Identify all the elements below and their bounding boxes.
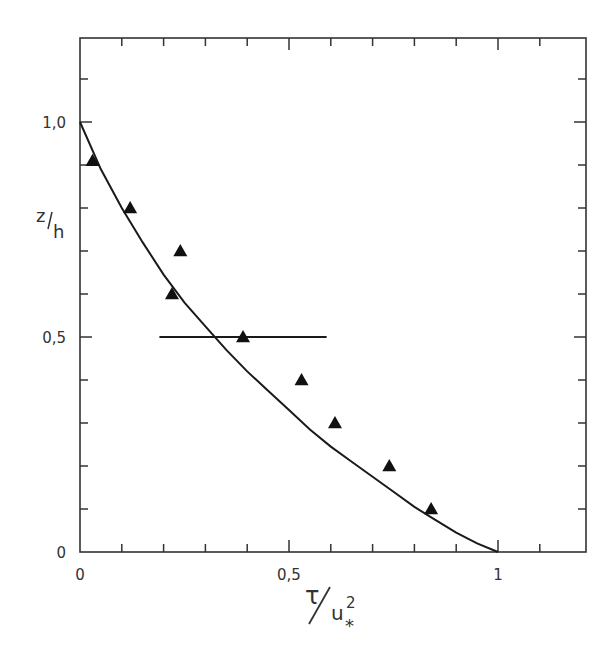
- y-tick-label: 0,5: [42, 329, 66, 347]
- data-markers: [86, 154, 439, 515]
- x-tick-label: 1: [493, 566, 503, 584]
- triangle-marker: [173, 244, 187, 256]
- triangle-marker: [424, 502, 438, 514]
- y-tick-label: 1,0: [42, 114, 66, 132]
- chart: 00,5100,51,0 z h τ u 2 *: [0, 0, 614, 656]
- x-tick-label: 0: [75, 566, 85, 584]
- x-label-numerator: τ: [305, 582, 319, 610]
- triangle-marker: [123, 201, 137, 213]
- y-label-slash: [48, 212, 52, 229]
- triangle-marker: [328, 416, 342, 428]
- x-axis-label: τ u 2 *: [305, 582, 356, 636]
- plot-frame: [80, 38, 586, 552]
- x-label-superscript: 2: [346, 594, 356, 612]
- x-label-denominator: u: [331, 601, 344, 625]
- y-label-denominator: h: [53, 221, 64, 242]
- x-label-subscript: *: [345, 615, 354, 636]
- x-tick-label: 0,5: [277, 566, 301, 584]
- y-label-numerator: z: [36, 205, 45, 226]
- y-tick-label: 0: [56, 544, 66, 562]
- triangle-marker: [382, 459, 396, 471]
- y-axis-label: z h: [36, 205, 64, 242]
- axis-ticks: [80, 38, 586, 552]
- triangle-marker: [295, 373, 309, 385]
